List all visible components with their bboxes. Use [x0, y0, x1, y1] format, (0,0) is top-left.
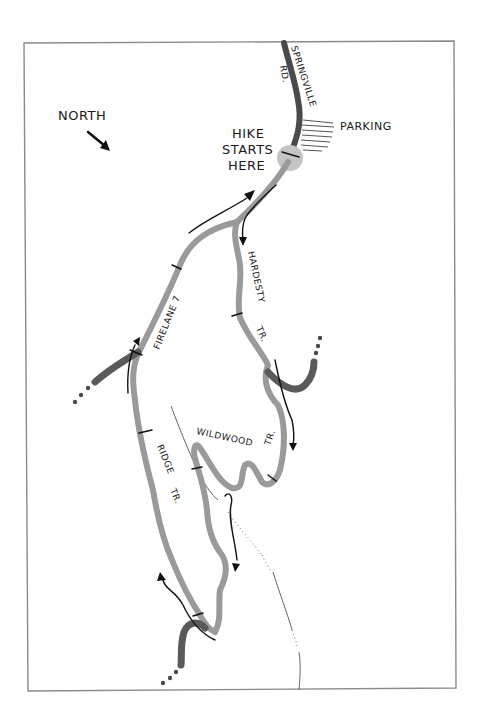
parking-label: PARKING: [340, 120, 392, 133]
connector-trails: [73, 336, 322, 685]
trail-label-hardesty: HARDESTY: [246, 250, 267, 303]
trailhead-circle-icon: [277, 145, 303, 171]
parking-hatch-icon: [301, 120, 334, 151]
direction-arrows: [128, 185, 297, 640]
start-label-line2: STARTS: [222, 142, 273, 157]
north-arrow-icon: [88, 132, 110, 151]
start-label-line3: HERE: [228, 158, 265, 173]
trail-label-wildwood: WILDWOOD: [196, 426, 254, 448]
trail-network: [133, 162, 288, 632]
road-suffix-label: RD.: [278, 65, 291, 84]
trail-tick-marks: [130, 265, 276, 616]
start-label-line1: HIKE: [232, 126, 264, 141]
trail-label-hardesty-suffix: TR.: [254, 324, 270, 343]
trail-map: NORTH HIKE STARTS HERE PARKING SPRINGVIL…: [0, 0, 481, 721]
trail-label-ridge-suffix: TR.: [168, 486, 184, 505]
trail-label-wildwood-suffix: TR.: [262, 428, 277, 447]
trail-label-ridge: RIDGE: [155, 443, 176, 475]
compass-label: NORTH: [58, 108, 106, 123]
